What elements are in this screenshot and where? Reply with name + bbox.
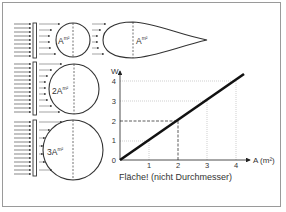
svg-text:0: 0 — [112, 156, 116, 165]
svg-text:4: 4 — [234, 161, 238, 170]
svg-text:2: 2 — [176, 161, 180, 170]
data-line — [120, 74, 244, 160]
svg-text:1: 1 — [112, 136, 116, 145]
circle-a-shape: Am² — [56, 23, 90, 57]
circle-2a-label: 2Am² — [52, 85, 69, 96]
svg-text:3: 3 — [112, 97, 116, 106]
x-tick-labels: 1 2 3 4 — [147, 161, 238, 170]
circle-2a-shape: 2Am² — [49, 64, 99, 114]
circle-3a-shape: 3Am² — [43, 120, 103, 180]
diagram-canvas: Am² Am² 2Am² 3Am² 0 — [0, 0, 286, 212]
w-vs-area-chart: 0 1 2 3 4 W 1 2 3 4 A (m²) Fläche! (nich… — [111, 67, 275, 182]
svg-text:4: 4 — [112, 77, 116, 86]
svg-text:2: 2 — [112, 117, 116, 126]
circle-a-label: Am² — [58, 35, 70, 46]
x-axis-label: A (m²) — [253, 156, 275, 165]
circle-3a-label: 3Am² — [47, 146, 64, 157]
flow-arrows-icon — [14, 24, 31, 174]
svg-text:3: 3 — [205, 161, 209, 170]
y-axis-label: W — [111, 67, 119, 76]
caption: Fläche! (nicht Durchmesser) — [119, 172, 232, 182]
y-tick-labels: 0 1 2 3 4 — [112, 77, 116, 165]
teardrop-label: Am² — [136, 35, 148, 46]
teardrop-shape: Am² — [103, 22, 207, 58]
plate-icon — [33, 23, 37, 176]
svg-text:1: 1 — [147, 161, 151, 170]
